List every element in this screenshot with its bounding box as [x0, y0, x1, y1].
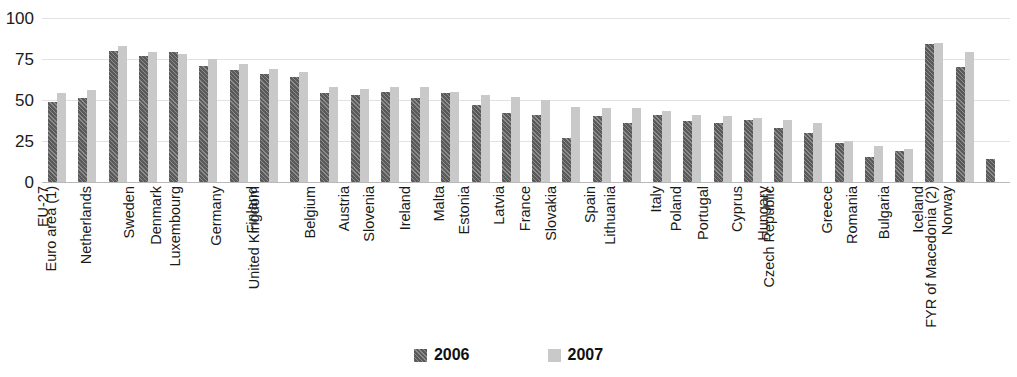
bar-2007: [602, 108, 611, 182]
solid-light-swatch: [548, 349, 561, 362]
bar-group: [708, 18, 738, 182]
bar-group: [677, 18, 707, 182]
bar-2006: [441, 93, 450, 182]
bar-2007: [632, 108, 641, 182]
bar-group: [889, 18, 919, 182]
bar-2006: [562, 138, 571, 182]
bar-group: [738, 18, 768, 182]
x-axis-tick-label: Bulgaria: [878, 186, 893, 239]
bar-2007: [118, 46, 127, 182]
x-axis-tick-label: Sweden: [122, 186, 137, 238]
bar-2007: [753, 118, 762, 182]
bar-chart: 0255075100 EU-27Euro area (1)Netherlands…: [0, 0, 1017, 377]
x-axis-tick-label: Ireland: [398, 186, 413, 230]
x-axis-tick-label: Cyprus: [730, 186, 745, 232]
bar-2007: [148, 52, 157, 182]
bar-2006: [260, 74, 269, 182]
x-axis-tick-label: Czech Republic: [763, 186, 778, 288]
bar-group: [466, 18, 496, 182]
bar-2006: [472, 105, 481, 182]
legend-item[interactable]: 2006: [414, 347, 470, 363]
x-axis-tick-label: FYR of Macedonia (2): [924, 186, 939, 328]
x-axis-tick-label: United Kingdom: [248, 186, 263, 289]
bar-group: [345, 18, 375, 182]
bar-group: [405, 18, 435, 182]
x-axis-tick-label: Portugal: [696, 186, 711, 240]
bar-group: [496, 18, 526, 182]
bar-2007: [934, 43, 943, 182]
bar-group: [254, 18, 284, 182]
bar-2006: [381, 92, 390, 182]
bars-layer: [42, 18, 1010, 182]
x-axis-tick-label: Norway: [940, 186, 955, 235]
bar-2006: [835, 143, 844, 182]
x-axis-tick-label: France: [519, 186, 534, 231]
bar-2007: [662, 111, 671, 182]
bar-2006: [502, 113, 511, 182]
bar-2007: [783, 120, 792, 182]
bar-2007: [450, 92, 459, 182]
bar-group: [163, 18, 193, 182]
hatched-dark-swatch: [414, 349, 427, 362]
bar-2007: [481, 95, 490, 182]
bar-group: [647, 18, 677, 182]
bar-2007: [269, 69, 278, 182]
x-axis-tick-label: Malta: [433, 186, 448, 221]
x-axis-tick-label: Estonia: [456, 186, 471, 234]
bar-group: [375, 18, 405, 182]
y-axis-tick-label: 0: [0, 174, 34, 191]
bar-group: [224, 18, 254, 182]
bar-group: [587, 18, 617, 182]
bar-group: [72, 18, 102, 182]
x-axis-labels: EU-27Euro area (1)NetherlandsSwedenDenma…: [42, 186, 1010, 336]
bar-2006: [290, 77, 299, 182]
bar-2006: [714, 123, 723, 182]
bar-2007: [239, 64, 248, 182]
bar-group: [556, 18, 586, 182]
bar-2006: [169, 52, 178, 182]
bar-2007: [87, 90, 96, 182]
bar-2007: [813, 123, 822, 182]
plot-area: 0255075100: [42, 18, 1010, 182]
bar-2007: [208, 59, 217, 182]
legend-item-label: 2007: [568, 347, 604, 363]
gridline: [42, 182, 1010, 183]
bar-2007: [571, 107, 580, 182]
bar-group: [859, 18, 889, 182]
bar-2007: [329, 87, 338, 182]
bar-2006: [48, 102, 57, 182]
bar-2007: [844, 141, 853, 182]
y-axis-tick-label: 75: [0, 51, 34, 68]
y-axis-tick-label: 25: [0, 133, 34, 150]
bar-group: [193, 18, 223, 182]
bar-2006: [744, 120, 753, 182]
bar-2007: [420, 87, 429, 182]
bar-2006: [230, 70, 239, 182]
bar-2006: [925, 44, 934, 182]
bar-2006: [956, 67, 965, 182]
bar-2006: [593, 116, 602, 182]
x-axis-tick-label: Latvia: [492, 186, 507, 225]
y-axis-tick-label: 50: [0, 92, 34, 109]
bar-2007: [360, 89, 369, 182]
x-axis-tick-label: Italy: [649, 186, 664, 213]
bar-2006: [532, 115, 541, 182]
x-axis-label-cell: Lithuania: [617, 186, 647, 336]
bar-group: [314, 18, 344, 182]
bar-group: [435, 18, 465, 182]
legend-item[interactable]: 2007: [548, 347, 604, 363]
bar-2007: [965, 52, 974, 182]
bar-2006: [351, 95, 360, 182]
bar-2006: [320, 93, 329, 182]
x-axis-tick-label: Euro area (1): [45, 186, 60, 271]
bar-2006: [199, 66, 208, 182]
x-axis-tick-label: Spain: [583, 186, 598, 223]
bar-group: [103, 18, 133, 182]
bar-2006: [109, 51, 118, 182]
bar-group: [526, 18, 556, 182]
bar-2006: [895, 151, 904, 182]
chart-legend: 20062007: [0, 347, 1017, 363]
x-axis-tick-label: Belgium: [303, 186, 318, 238]
x-axis-tick-label: Lithuania: [602, 186, 617, 245]
bar-group: [284, 18, 314, 182]
